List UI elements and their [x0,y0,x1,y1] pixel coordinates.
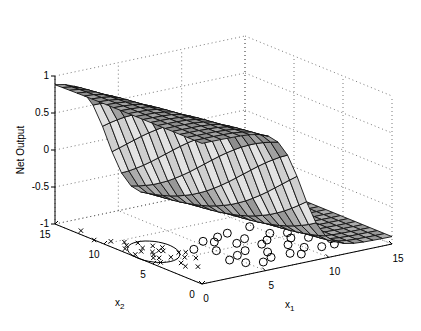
x-marker [157,256,161,260]
o-marker [199,237,207,245]
x-marker [79,228,83,232]
decision-ellipse [128,241,180,263]
z-tick-label: -0.5 [32,181,50,192]
z-tick-label: 0 [43,144,49,155]
z-tick-label: -1 [40,218,49,229]
o-marker [226,256,234,264]
o-marker [266,229,274,237]
x-marker [151,244,155,248]
o-marker [246,223,254,231]
x-marker [160,245,164,249]
net-output-surface [55,85,392,244]
x2-tick-label: 5 [140,269,146,280]
x2-tick-label: 10 [88,249,100,260]
x-marker [179,261,183,265]
x1-tick-label: 0 [203,293,209,304]
o-marker [241,235,249,243]
x2-tick-label: 15 [39,229,51,240]
x-marker [183,250,187,254]
o-marker [233,251,241,259]
o-marker [258,240,266,248]
x-marker [183,264,187,268]
o-marker [223,229,231,237]
x-marker [109,239,113,243]
x1-tick-label: 15 [392,253,404,264]
x-marker [151,256,155,260]
o-marker [241,247,249,255]
x-marker [182,255,186,259]
x2-axis-label: x2 [115,297,125,311]
o-marker [233,239,241,247]
x2-tick-label: 0 [189,289,195,300]
o-marker [300,243,308,251]
z-tick-label: 1 [43,70,49,81]
z-tick-label: 0.5 [35,107,49,118]
x-marker [194,256,198,260]
x-marker [169,255,173,259]
o-marker [190,245,198,253]
x1-axis-label: x1 [285,299,295,313]
x1-tick-label: 5 [269,280,275,291]
o-marker [318,243,326,251]
x1-tick-label: 10 [329,266,341,277]
o-marker [286,249,294,257]
x-marker [92,238,96,242]
z-axis-label: Net Output [15,126,26,175]
o-marker [259,258,267,266]
surface-plot: 10.50-0.5-1005510101515 Net Output x2 x1 [0,0,421,331]
x-marker [196,264,200,268]
